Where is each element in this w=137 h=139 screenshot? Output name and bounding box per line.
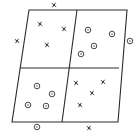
cross-mark-icon bbox=[78, 103, 82, 107]
circled-dot-icon bbox=[78, 51, 84, 57]
circled-dot-icon bbox=[85, 27, 91, 33]
circled-dot-icon bbox=[34, 124, 40, 130]
cross-mark-icon bbox=[45, 43, 49, 47]
cross-mark-icon bbox=[101, 80, 105, 84]
circled-dot-icon bbox=[109, 31, 115, 37]
circled-dot-icon bbox=[91, 43, 97, 49]
data-points bbox=[15, 3, 133, 130]
cross-mark-icon bbox=[38, 22, 42, 26]
xor-grid-diagram bbox=[0, 0, 137, 139]
cross-mark-icon bbox=[15, 39, 19, 43]
cross-mark-icon bbox=[90, 91, 94, 95]
cross-mark-icon bbox=[52, 3, 56, 7]
circled-dot-icon bbox=[34, 83, 40, 89]
circled-dot-icon bbox=[43, 103, 49, 109]
cross-mark-icon bbox=[62, 27, 66, 31]
circled-dot-icon bbox=[127, 38, 133, 44]
vertical-divider bbox=[62, 10, 77, 122]
cross-mark-icon bbox=[87, 126, 91, 130]
cross-mark-icon bbox=[74, 81, 78, 85]
circled-dot-icon bbox=[25, 102, 31, 108]
circled-dot-icon bbox=[49, 91, 55, 97]
